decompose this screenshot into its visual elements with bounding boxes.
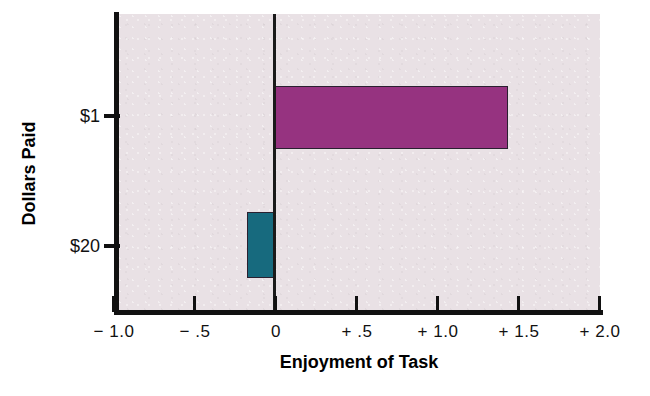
zero-reference-line	[273, 14, 276, 312]
x-axis-tick-label: + 1.5	[499, 322, 540, 342]
chart-figure: − 1.0 − .5 0 + .5 + 1.0 + 1.5 + 2.0 $1 $…	[0, 0, 650, 396]
x-axis-tick-label: − 1.0	[94, 322, 135, 342]
y-axis-tick-mark	[104, 114, 120, 118]
y-axis-tick-label: $20	[70, 236, 100, 257]
x-axis-tick-mark	[436, 296, 439, 312]
x-axis-tick-mark	[355, 296, 358, 312]
x-axis-tick-label: + 1.0	[418, 322, 459, 342]
y-axis-spine	[114, 12, 119, 315]
x-axis-tick-mark	[598, 296, 601, 312]
x-axis-tick-label: + 2.0	[580, 322, 621, 342]
x-axis-tick-label: 0	[271, 322, 281, 342]
y-axis-tick-mark	[104, 244, 120, 248]
plot-area	[118, 14, 600, 312]
x-axis-spine	[114, 310, 603, 315]
bar-dollars-paid-20[interactable]	[247, 212, 275, 278]
y-axis-title: Dollars Paid	[19, 94, 40, 254]
bar-dollars-paid-1[interactable]	[275, 86, 508, 149]
x-axis-tick-mark	[517, 296, 520, 312]
plot-background-texture	[118, 14, 600, 312]
x-axis-title: Enjoyment of Task	[118, 352, 600, 373]
x-axis-tick-label: + .5	[342, 322, 373, 342]
x-axis-tick-mark	[274, 296, 277, 312]
y-axis-tick-label: $1	[80, 106, 100, 127]
x-axis-tick-label: − .5	[180, 322, 211, 342]
x-axis-tick-mark	[193, 296, 196, 312]
x-axis-tick-mark	[112, 296, 115, 312]
